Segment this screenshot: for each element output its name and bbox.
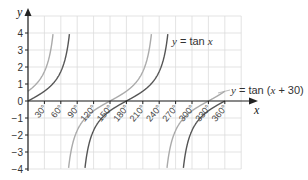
y-tick-label: 2: [17, 62, 23, 73]
y-tick-label: −4: [12, 164, 24, 175]
y-tick-label: −1: [12, 113, 24, 124]
x-tick-label: 210°: [128, 103, 148, 124]
y-tick-label: 3: [17, 45, 23, 56]
x-axis-title: x: [253, 103, 260, 117]
tan-x-label-x: x: [207, 35, 213, 47]
x-tick-label: 330°: [193, 103, 213, 124]
x-tick-label: 150°: [95, 103, 115, 124]
curve-branch: [28, 34, 69, 101]
x-tick-label: 30°: [33, 103, 50, 120]
y-axis-title: y: [16, 5, 23, 19]
axes: [25, 8, 259, 171]
tan-x-label: y = tan x: [171, 35, 213, 47]
y-tick-label: 4: [17, 28, 23, 39]
tan-shift-label-end: + 30): [275, 84, 303, 96]
x-tick-label: 60°: [49, 103, 66, 120]
tan-graph: −4−3−2−10123430°60°90°120°150°180°210°24…: [0, 0, 308, 180]
curve-branch: [28, 34, 53, 91]
x-tick-label: 270°: [160, 103, 180, 124]
y-tick-label: 1: [17, 79, 23, 90]
x-tick-label: 360°: [210, 103, 230, 124]
x-tick-label: 240°: [144, 103, 164, 124]
tan-shift-label-mid: = tan (: [236, 84, 271, 96]
tan-x-label-mid: = tan: [177, 35, 208, 47]
x-tick-label: 300°: [177, 103, 197, 124]
y-axis-arrow-icon: [25, 8, 32, 16]
y-tick-label: −3: [12, 147, 24, 158]
y-tick-label: −2: [12, 130, 24, 141]
tan-shift-label: y = tan (x + 30): [230, 84, 304, 96]
y-tick-label: 0: [17, 96, 23, 107]
x-tick-label: 120°: [78, 103, 98, 124]
x-tick-label: 180°: [111, 103, 131, 124]
